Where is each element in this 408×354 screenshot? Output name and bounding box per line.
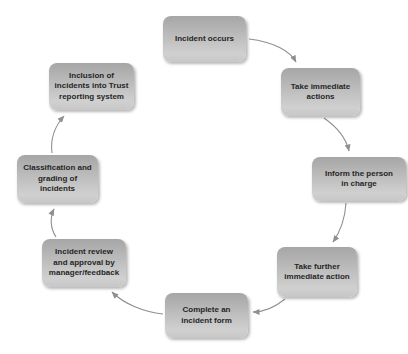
flow-arrow-take-immediate-actions-to-inform-person-in-charge — [324, 118, 349, 151]
flow-arrow-incident-occurs-to-take-immediate-actions — [249, 39, 296, 62]
incident-flow-diagram: Incident occursTake immediate actionsInf… — [0, 0, 408, 354]
flow-arrow-classification-grading-to-inclusion-trust-reporting — [52, 116, 64, 153]
flow-node-inclusion-trust-reporting: Inclusion of incidents into Trust report… — [49, 63, 134, 110]
flow-arrow-take-further-immediate-action-to-complete-incident-form — [253, 299, 285, 312]
flow-node-incident-review-approval: Incident review and approval by manager/… — [42, 239, 126, 287]
flow-arrow-inform-person-in-charge-to-take-further-immediate-action — [333, 203, 346, 242]
flow-node-take-further-immediate-action: Take further immediate action — [277, 247, 357, 297]
flow-arrow-incident-review-approval-to-classification-grading — [51, 209, 56, 237]
flow-node-incident-occurs: Incident occurs — [163, 16, 246, 62]
flow-node-classification-grading: Classification and grading of incidents — [17, 155, 98, 203]
flow-arrow-complete-incident-form-to-incident-review-approval — [112, 292, 163, 314]
flow-node-inform-person-in-charge: Inform the person in charge — [312, 157, 406, 201]
flow-node-complete-incident-form: Complete an incident form — [165, 293, 248, 338]
flow-node-take-immediate-actions: Take immediate actions — [281, 68, 360, 116]
